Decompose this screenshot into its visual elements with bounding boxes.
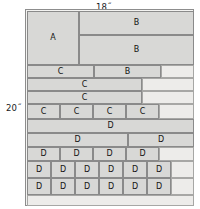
cut-part-d: D [93, 147, 126, 161]
part-label: D [132, 165, 138, 173]
cut-part-d: D [27, 147, 60, 161]
part-label: C [58, 67, 64, 75]
waste-region [171, 178, 194, 195]
part-label: C [82, 80, 88, 88]
part-label: B [134, 19, 140, 27]
cut-part-c: C [27, 104, 60, 119]
cut-part-d: D [27, 133, 128, 147]
part-label: D [106, 150, 112, 158]
part-label: D [107, 122, 113, 130]
part-label: D [132, 182, 138, 190]
waste-region [159, 104, 194, 119]
part-label: D [156, 165, 162, 173]
part-label: D [156, 182, 162, 190]
part-label: C [74, 107, 80, 115]
stock-sheet: ABBCBCCCCCCDDDDDDDDDDDDDDDDDDD [25, 9, 194, 206]
cut-part-d: D [99, 161, 123, 178]
cut-part-c: C [60, 104, 93, 119]
waste-region [171, 161, 194, 178]
part-label: D [60, 182, 66, 190]
cut-part-d: D [27, 161, 51, 178]
cut-part-b: B [79, 11, 194, 35]
waste-region [142, 78, 194, 91]
waste-region [159, 147, 194, 161]
waste-region [161, 65, 194, 78]
cut-part-c: C [93, 104, 126, 119]
part-label: D [84, 182, 90, 190]
part-label: C [41, 107, 47, 115]
cut-part-d: D [75, 161, 99, 178]
cut-part-d: D [123, 161, 147, 178]
cut-part-d: D [147, 161, 171, 178]
cut-part-d: D [99, 178, 123, 195]
cut-part-d: D [123, 178, 147, 195]
cut-part-b: B [94, 65, 161, 78]
cut-part-b: B [79, 35, 194, 65]
part-label: D [36, 182, 42, 190]
part-label: D [73, 150, 79, 158]
cut-part-d: D [128, 133, 194, 147]
part-label: D [40, 150, 46, 158]
part-label: D [84, 165, 90, 173]
part-label: C [107, 107, 113, 115]
cut-part-d: D [126, 147, 159, 161]
waste-region [142, 91, 194, 104]
cut-part-c: C [27, 78, 142, 91]
part-label: D [108, 165, 114, 173]
cut-part-d: D [51, 161, 75, 178]
cutting-layout-diagram: 18˝ 20˝ ABBCBCCCCCCDDDDDDDDDDDDDDDDDDD [0, 0, 200, 209]
part-label: B [125, 67, 131, 75]
cut-part-d: D [147, 178, 171, 195]
part-label: A [50, 34, 55, 42]
left-dimension-label: 20˝ [6, 104, 22, 113]
cut-part-c: C [27, 65, 94, 78]
part-label: D [139, 150, 145, 158]
cut-part-a: A [27, 11, 79, 65]
part-label: D [60, 165, 66, 173]
waste-region [27, 195, 194, 206]
cut-part-c: C [126, 104, 159, 119]
part-label: D [158, 136, 164, 144]
part-label: C [140, 107, 146, 115]
part-label: D [74, 136, 80, 144]
part-label: C [82, 93, 88, 101]
cut-part-d: D [51, 178, 75, 195]
cut-part-c: C [27, 91, 142, 104]
cut-part-d: D [75, 178, 99, 195]
cut-part-d: D [60, 147, 93, 161]
cut-part-d: D [27, 178, 51, 195]
cut-part-d: D [27, 119, 194, 133]
part-label: D [36, 165, 42, 173]
part-label: B [134, 46, 140, 54]
part-label: D [108, 182, 114, 190]
